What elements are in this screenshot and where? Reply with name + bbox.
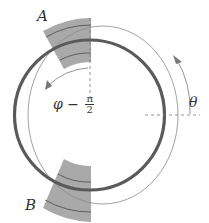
ring-diagram xyxy=(0,0,209,223)
theta-arrow-head xyxy=(173,55,182,64)
theta-arrow xyxy=(176,58,190,114)
label-theta: θ xyxy=(189,94,197,110)
pi-over-2-fraction: π 2 xyxy=(85,94,94,115)
fraction-denominator: 2 xyxy=(85,105,94,115)
phi-arrow-head xyxy=(45,80,52,90)
label-b: B xyxy=(25,196,36,214)
label-phi-minus-pi-over-2: φ − π 2 xyxy=(53,94,94,115)
phi-expression: φ − xyxy=(53,96,79,112)
label-a: A xyxy=(37,7,48,25)
phi-arrow xyxy=(48,68,88,86)
